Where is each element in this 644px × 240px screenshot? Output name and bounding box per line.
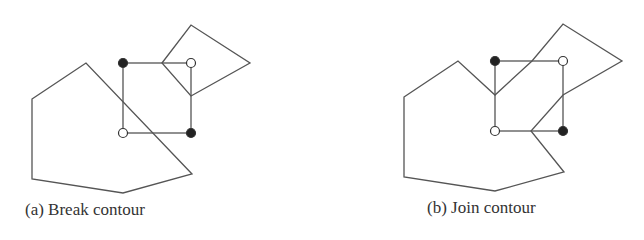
grid-cell (123, 63, 191, 133)
filled-vertex-icon (491, 57, 500, 66)
filled-vertex-icon (119, 59, 128, 68)
caption-break-contour: (a) Break contour (25, 200, 145, 220)
contour-polygon (162, 25, 250, 96)
figure-break-contour (32, 25, 250, 193)
open-vertex-icon (559, 57, 568, 66)
filled-vertex-icon (559, 127, 568, 136)
figure-join-contour (404, 24, 622, 191)
open-vertex-icon (491, 127, 500, 136)
contour-polygon (404, 24, 622, 191)
open-vertex-icon (187, 59, 196, 68)
open-vertex-icon (119, 129, 128, 138)
filled-vertex-icon (187, 129, 196, 138)
contour-polygon (32, 63, 192, 193)
caption-join-contour: (b) Join contour (427, 198, 536, 218)
grid-cell (495, 61, 563, 131)
